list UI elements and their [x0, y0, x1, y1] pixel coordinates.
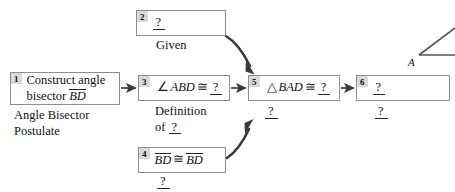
statement-box-2-number: 2 — [137, 11, 148, 22]
statement-box-6-text: ? — [368, 76, 450, 100]
statement-box-5-blank[interactable]: ? — [318, 81, 331, 95]
reason-label-box-2: Given — [156, 38, 187, 54]
reason-label-box-6: ? — [375, 104, 388, 120]
reason-label-box-3-line1: Definition — [155, 104, 206, 118]
reason-label-box-1-line2: Postulate — [14, 124, 60, 138]
statement-box-1-line1: Construct angle — [27, 73, 106, 87]
statement-box-2[interactable]: 2 ? — [136, 10, 226, 36]
reason-label-box-3-blank[interactable]: ? — [169, 121, 182, 135]
segment-bd-overline: BD — [69, 89, 86, 103]
statement-box-4[interactable]: 4 BD≅BD — [138, 147, 226, 173]
flowchart-proof-diagram: A 1 Construct angle bisector BD 2 ? 3 ∠A… — [0, 0, 455, 192]
statement-box-1-line2-prefix: bisector — [27, 89, 70, 103]
segment-bd-left-overline: BD — [155, 153, 172, 167]
reason-label-box-1-line1: Angle Bisector — [14, 108, 89, 122]
congruent-symbol-icon: ≅ — [303, 80, 318, 96]
statement-box-4-number: 4 — [139, 148, 150, 159]
statement-box-1[interactable]: 1 Construct angle bisector BD — [10, 72, 120, 105]
reason-label-box-1: Angle Bisector Postulate — [14, 108, 89, 139]
statement-box-2-text: ? — [148, 11, 226, 35]
segment-bd-right-overline: BD — [186, 153, 203, 167]
statement-box-5-number: 5 — [249, 76, 260, 87]
angle-symbol-icon: ∠ — [155, 80, 171, 96]
statement-box-3-text: ∠ABD≅? — [150, 76, 230, 100]
statement-box-1-text: Construct angle bisector BD — [22, 73, 120, 104]
statement-box-5[interactable]: 5 △BAD≅? — [248, 75, 340, 101]
reason-label-box-4-blank[interactable]: ? — [157, 175, 170, 189]
statement-box-5-text: △BAD≅? — [260, 76, 340, 100]
triangle-symbol-icon: △ — [265, 80, 279, 96]
reason-label-box-3-line2-prefix: of — [155, 120, 169, 134]
statement-box-2-blank[interactable]: ? — [153, 16, 166, 30]
triangle-bad-label: BAD — [279, 80, 303, 96]
congruent-symbol-icon: ≅ — [171, 152, 186, 168]
statement-box-6-blank[interactable]: ? — [373, 81, 386, 95]
reason-label-box-4: ? — [157, 174, 170, 190]
reason-label-box-3: Definition of ? — [155, 104, 206, 135]
reason-label-box-5-blank[interactable]: ? — [265, 105, 278, 119]
statement-box-6-number: 6 — [357, 76, 368, 87]
angle-abd-label: ABD — [171, 80, 195, 96]
statement-box-3-blank[interactable]: ? — [210, 81, 223, 95]
angle-figure-vertex-label: A — [408, 56, 415, 68]
statement-box-6[interactable]: 6 ? — [356, 75, 450, 101]
statement-box-3[interactable]: 3 ∠ABD≅? — [138, 75, 230, 101]
reason-label-box-5: ? — [265, 104, 278, 120]
statement-box-4-text: BD≅BD — [150, 148, 226, 172]
reason-label-box-2-text: Given — [156, 38, 187, 52]
statement-box-3-number: 3 — [139, 76, 150, 87]
statement-box-1-number: 1 — [11, 73, 22, 84]
reason-label-box-6-blank[interactable]: ? — [375, 105, 388, 119]
congruent-symbol-icon: ≅ — [195, 80, 210, 96]
